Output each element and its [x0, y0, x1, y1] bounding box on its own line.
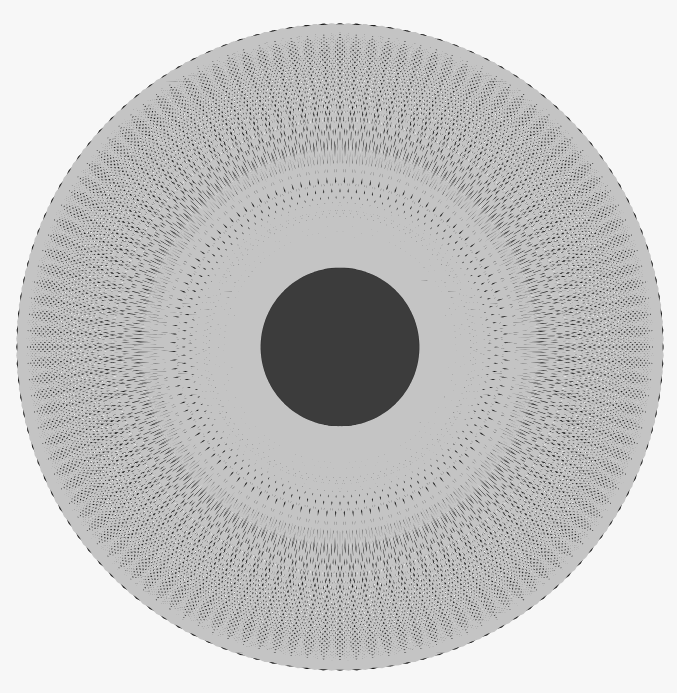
- center-disk: [261, 268, 419, 426]
- spirograph-image: Spirograph pattern: two interleaved hypo…: [0, 0, 677, 693]
- spirograph-svg: [0, 0, 677, 693]
